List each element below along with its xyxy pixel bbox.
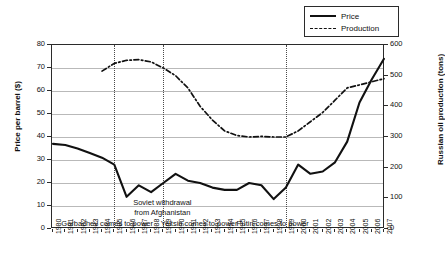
event-annotation-soviet-withdrawal: Soviet withdrawalfrom Afghanistan	[106, 198, 218, 217]
dash-dot-line-icon	[310, 23, 336, 33]
x-tick-mark	[101, 229, 102, 232]
left-tick-label-0: 0	[19, 224, 45, 232]
x-tick-label-2004: 2004	[349, 219, 356, 234]
data-series-layer	[52, 45, 385, 229]
right-tick-label-300: 300	[390, 132, 418, 140]
right-tick-label-600: 600	[390, 40, 418, 48]
x-tick-mark	[175, 229, 176, 232]
x-tick-mark	[322, 229, 323, 232]
x-tick-label-1991: 1991	[190, 219, 197, 234]
legend-item-price: Price	[310, 10, 394, 22]
x-tick-label-1981: 1981	[67, 219, 74, 234]
x-tick-label-1993: 1993	[214, 219, 221, 234]
x-tick-label-2000: 2000	[300, 219, 307, 234]
x-tick-mark	[236, 229, 237, 232]
x-tick-mark	[297, 229, 298, 232]
x-tick-mark	[211, 229, 212, 232]
x-tick-label-1987: 1987	[141, 219, 148, 234]
x-tick-label-1996: 1996	[251, 219, 258, 234]
x-tick-label-1988: 1988	[153, 219, 160, 234]
x-tick-label-1986: 1986	[129, 219, 136, 234]
x-tick-label-1982: 1982	[80, 219, 87, 234]
legend-item-production: Production	[310, 22, 394, 34]
x-tick-mark	[359, 229, 360, 232]
left-tick-label-20: 20	[19, 178, 45, 186]
x-tick-mark	[285, 229, 286, 232]
right-tick-label-100: 100	[390, 193, 418, 201]
x-tick-label-2002: 2002	[325, 219, 332, 234]
x-tick-mark	[334, 229, 335, 232]
x-tick-label-1983: 1983	[92, 219, 99, 234]
x-tick-label-1999: 1999	[288, 219, 295, 234]
production-line	[102, 60, 384, 137]
x-tick-mark	[248, 229, 249, 232]
x-tick-mark	[187, 229, 188, 232]
x-tick-mark	[260, 229, 261, 232]
x-tick-mark	[273, 229, 274, 232]
x-tick-mark	[309, 229, 310, 232]
x-tick-mark	[138, 229, 139, 232]
x-tick-mark	[126, 229, 127, 232]
x-tick-label-1994: 1994	[227, 219, 234, 234]
x-tick-mark	[224, 229, 225, 232]
x-tick-label-2001: 2001	[312, 219, 319, 234]
right-tick-label-0: 0	[390, 224, 418, 232]
right-tick-label-200: 200	[390, 163, 418, 171]
chart-legend: Price Production	[304, 6, 399, 37]
x-tick-mark	[150, 229, 151, 232]
left-tick-label-10: 10	[19, 201, 45, 209]
x-tick-label-1998: 1998	[276, 219, 283, 234]
left-tick-label-80: 80	[19, 40, 45, 48]
price-line	[53, 59, 384, 199]
left-tick-label-70: 70	[19, 63, 45, 71]
x-tick-label-2003: 2003	[337, 219, 344, 234]
x-tick-mark	[52, 229, 53, 232]
x-tick-label-1992: 1992	[202, 219, 209, 234]
x-tick-mark	[383, 229, 384, 232]
x-tick-mark	[162, 229, 163, 232]
left-tick-label-50: 50	[19, 109, 45, 117]
x-tick-mark	[77, 229, 78, 232]
solid-line-icon	[310, 11, 336, 21]
right-tick-label-400: 400	[390, 101, 418, 109]
x-tick-mark	[371, 229, 372, 232]
x-tick-label-1980: 1980	[55, 219, 62, 234]
x-tick-label-2005: 2005	[362, 219, 369, 234]
x-tick-label-1990: 1990	[178, 219, 185, 234]
right-tick-label-500: 500	[390, 71, 418, 79]
x-tick-label-1995: 1995	[239, 219, 246, 234]
event-label-line2: from Afghanistan	[106, 208, 218, 218]
x-tick-label-1989: 1989	[165, 219, 172, 234]
x-tick-mark	[113, 229, 114, 232]
x-tick-label-2006: 2006	[374, 219, 381, 234]
x-tick-label-1985: 1985	[116, 219, 123, 234]
x-tick-label-2007: 2007	[386, 219, 393, 234]
legend-label-price: Price	[341, 12, 359, 21]
x-axis-ticks: 1980198119821983198419851986198719881989…	[51, 229, 384, 275]
left-tick-label-60: 60	[19, 86, 45, 94]
x-tick-mark	[346, 229, 347, 232]
x-tick-mark	[89, 229, 90, 232]
x-tick-label-1997: 1997	[263, 219, 270, 234]
x-tick-label-1984: 1984	[104, 219, 111, 234]
left-tick-label-40: 40	[19, 132, 45, 140]
right-axis-title: Russian oil production (tons)	[436, 45, 445, 175]
x-tick-mark	[64, 229, 65, 232]
left-tick-label-30: 30	[19, 155, 45, 163]
x-tick-mark	[199, 229, 200, 232]
legend-label-production: Production	[341, 24, 379, 33]
event-label-line1: Soviet withdrawal	[106, 198, 218, 208]
